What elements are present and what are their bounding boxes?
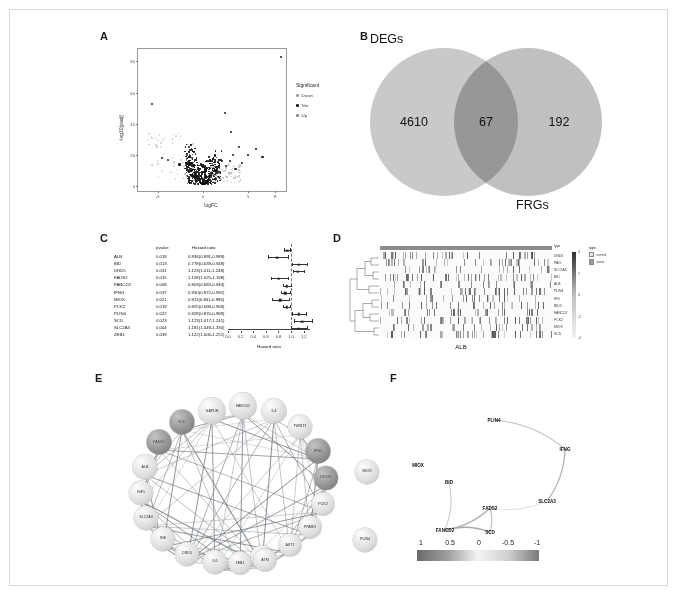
network-node-ins[interactable]: INS — [151, 527, 175, 551]
network-node-twist1[interactable]: TWIST1 — [288, 415, 312, 439]
heatmap-cell — [463, 324, 464, 331]
volcano-point — [187, 144, 189, 146]
heatmap-cell — [401, 317, 402, 324]
network-node-igf1[interactable]: IGF1 — [129, 481, 153, 505]
correlation-node-plin4[interactable]: PLIN4 — [487, 418, 500, 423]
network-node-label: SCD — [178, 420, 186, 424]
volcano-point — [223, 181, 225, 183]
volcano-point — [198, 183, 200, 185]
network-node-gapdh[interactable]: GAPDH — [199, 398, 226, 425]
network-node-fancd2[interactable]: FANCD2 — [230, 393, 257, 420]
volcano-point — [208, 173, 210, 175]
network-node-fads2[interactable]: FADS2 — [147, 430, 172, 455]
heatmap-cell — [496, 317, 497, 324]
forest-ci-cap — [294, 319, 295, 322]
correlation-node-bid[interactable]: BID — [445, 480, 453, 485]
network-node-label: TWIST1 — [293, 425, 306, 429]
network-node-il6[interactable]: IL6 — [203, 550, 227, 574]
venn-count-right-only: 192 — [549, 115, 570, 129]
correlation-node-slc2a3[interactable]: SLC2A3 — [538, 499, 556, 504]
heatmap-cell — [538, 302, 539, 309]
heatmap-cell — [515, 317, 516, 324]
forest-row-hazard-ratio: 0.825(0.698-0.968) — [188, 304, 225, 309]
panel-a-y-tick-mark — [136, 186, 138, 187]
correlation-edge — [494, 420, 565, 449]
heatmap-cell — [490, 324, 491, 331]
legend-swatch-icon — [296, 104, 299, 107]
volcano-point — [187, 178, 189, 180]
panel-a-volcano-plot: A -log10(padj) logFC 020406080-5058 Sign… — [100, 30, 350, 225]
network-node-label: ZEB1 — [236, 561, 245, 565]
correlation-node-ifng[interactable]: IFNG — [560, 447, 571, 452]
correlation-node-fancd2[interactable]: FANCD2 — [436, 528, 454, 533]
volcano-point — [208, 171, 210, 173]
heatmap-annotation-label: type — [554, 244, 560, 248]
network-node-drd5[interactable]: DRD5 — [175, 542, 199, 566]
heatmap-cell — [535, 302, 536, 309]
network-node-pparg[interactable]: PPARG — [299, 516, 322, 539]
forest-ci-cap — [291, 326, 292, 329]
heatmap-cell — [409, 302, 410, 309]
heatmap-cell — [539, 324, 540, 331]
network-node-slc2a3[interactable]: SLC2A3 — [134, 506, 158, 530]
network-node-scd[interactable]: SCD — [170, 410, 195, 435]
network-node-ifng[interactable]: IFNG — [306, 439, 331, 464]
heatmap-cell — [420, 331, 421, 338]
heatmap-cell — [488, 295, 489, 302]
network-node-label: MIOX — [362, 470, 371, 474]
heatmap-cell — [521, 302, 522, 309]
forest-x-tick-mark — [291, 331, 292, 333]
heatmap-cell — [541, 266, 542, 273]
network-node-akt1[interactable]: AKT1 — [279, 534, 302, 557]
network-node-pck2[interactable]: PCK2 — [312, 493, 335, 516]
heatmap-cell — [453, 309, 454, 316]
panel-a-y-tick-mark — [136, 124, 138, 125]
heatmap-cell — [409, 266, 410, 273]
panel-e-ppi-network: E GAPDHFANCD2IL4SCDTWIST1FADS2IFNGALBDEC… — [95, 372, 360, 562]
heatmap-dendrogram — [347, 254, 379, 338]
volcano-point — [216, 177, 218, 179]
heatmap-cell — [464, 274, 465, 281]
correlation-node-scd[interactable]: SCD — [485, 530, 495, 535]
network-node-miox[interactable]: MIOX — [355, 460, 379, 484]
heatmap-cell — [513, 266, 514, 273]
volcano-point — [230, 131, 232, 133]
panel-a-plot-area: 020406080-5058 — [137, 48, 287, 192]
network-node-zeb1[interactable]: ZEB1 — [229, 552, 252, 575]
heatmap-cell — [529, 266, 530, 273]
correlation-node-fads2[interactable]: FADS2 — [483, 506, 498, 511]
heatmap-cell — [428, 324, 429, 331]
forest-row-pvalue: 0.015 — [156, 275, 167, 280]
forest-point-estimate — [284, 292, 287, 295]
panel-a-legend-label: Down — [302, 93, 313, 98]
volcano-point — [194, 161, 196, 163]
forest-x-tick-mark — [266, 331, 267, 333]
heatmap-cell — [506, 324, 507, 331]
forest-row-gene: FADS2 — [114, 275, 128, 280]
forest-row-gene: MIOX — [114, 297, 125, 302]
network-node-atm[interactable]: ATM — [254, 549, 277, 572]
volcano-point — [225, 170, 227, 172]
heatmap-cell — [523, 288, 524, 295]
heatmap-row-label: DRD5 — [554, 254, 563, 258]
heatmap-cell — [459, 281, 460, 288]
network-node-decr1[interactable]: DECR1 — [314, 466, 338, 490]
panel-a-y-tick-mark — [136, 93, 138, 94]
network-node-alb[interactable]: ALB — [133, 455, 158, 480]
network-node-plin4[interactable]: PLIN4 — [353, 528, 377, 552]
heatmap-colorbar-tick: 0 — [578, 293, 580, 297]
heatmap-cell — [422, 324, 423, 331]
network-node-il4[interactable]: IL4 — [262, 399, 287, 424]
heatmap-cell — [395, 252, 396, 259]
heatmap-row-label: PAG — [554, 261, 561, 265]
heatmap-cell — [402, 302, 403, 309]
heatmap-cell — [443, 295, 444, 302]
heatmap-cell — [477, 309, 478, 316]
forest-ci-cap — [307, 326, 308, 329]
volcano-point — [182, 162, 184, 164]
heatmap-cell — [483, 331, 484, 338]
correlation-node-miox[interactable]: MIOX — [412, 463, 424, 468]
forest-x-axis-label: Hazard ratio — [257, 344, 281, 349]
heatmap-cell — [443, 317, 444, 324]
heatmap-legend-item: normal — [589, 252, 606, 257]
